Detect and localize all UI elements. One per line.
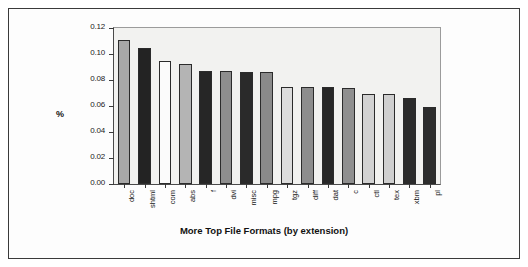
bar [362,94,375,184]
bar [118,40,131,184]
y-tick-mark [109,80,114,81]
x-tick-mark [206,184,207,188]
bar [260,72,273,184]
bar [138,48,151,185]
x-tick-label: misc [249,190,258,205]
x-tick-mark [267,184,268,188]
bar [199,71,212,184]
y-tick-label: 0.04 [90,126,105,135]
bar [423,107,436,184]
bar [220,71,233,184]
x-tick-label: dvi [229,190,238,200]
x-tick-label: com [168,190,177,204]
x-tick-label: doc [127,190,136,202]
y-tick-mark [109,158,114,159]
bar [403,98,416,184]
bar [342,88,355,184]
x-tick-mark [348,184,349,188]
y-axis-label: % [56,109,64,119]
bar [281,87,294,185]
bar [322,87,335,185]
x-tick-label: tex [392,190,401,200]
x-tick-label: pl [433,190,442,196]
x-tick-label: dat [331,190,340,200]
bar [301,87,314,185]
chart-figure: % 0.000.020.040.060.080.100.12 docshtmlc… [8,8,520,259]
x-tick-mark [409,184,410,188]
x-tick-label: ctl [372,190,381,198]
x-tick-mark [246,184,247,188]
plot-area: 0.000.020.040.060.080.100.12 docshtmlcom… [113,27,441,185]
x-tick-label: c [351,190,360,194]
x-tick-label: xbm [412,190,421,204]
bar [240,72,253,184]
y-tick-label: 0.02 [90,152,105,161]
y-tick-mark [109,184,114,185]
x-tick-mark [308,184,309,188]
y-tick-label: 0.12 [90,22,105,31]
x-axis-title: More Top File Formats (by extension) [9,225,519,236]
y-tick-mark [109,54,114,55]
y-tick-mark [109,28,114,29]
bar [179,64,192,184]
x-tick-label: diff [311,190,320,200]
y-tick-mark [109,132,114,133]
x-tick-mark [185,184,186,188]
x-tick-mark [145,184,146,188]
x-tick-label: abs [188,190,197,202]
bar [159,61,172,185]
y-tick-label: 0.06 [90,100,105,109]
x-tick-label: f [209,190,218,192]
x-tick-mark [287,184,288,188]
y-tick-label: 0.08 [90,74,105,83]
x-tick-mark [328,184,329,188]
x-tick-label: tgz [290,190,299,200]
bar [383,94,396,184]
x-tick-mark [226,184,227,188]
x-tick-mark [389,184,390,188]
x-tick-mark [124,184,125,188]
x-tick-label: mpg [270,190,279,205]
x-tick-mark [369,184,370,188]
x-tick-mark [165,184,166,188]
x-tick-mark [430,184,431,188]
y-tick-label: 0.00 [90,178,105,187]
x-tick-label: shtml [148,190,157,208]
y-tick-mark [109,106,114,107]
y-tick-label: 0.10 [90,48,105,57]
